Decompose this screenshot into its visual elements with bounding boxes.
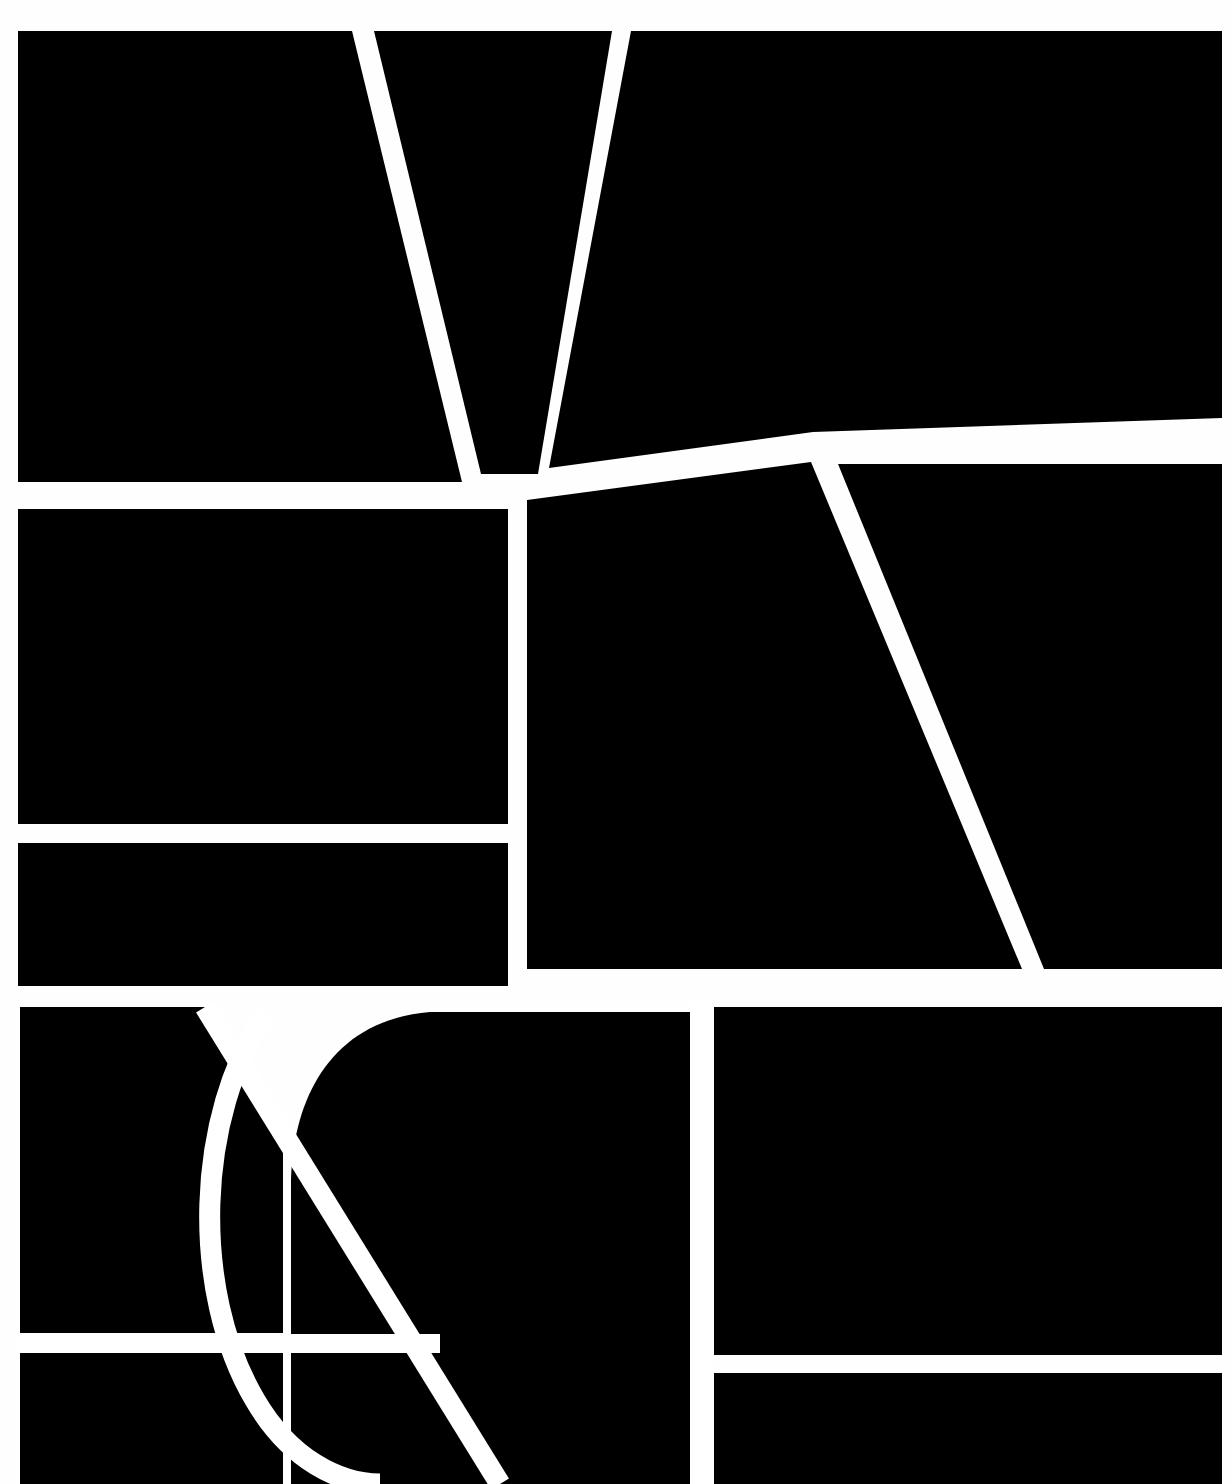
panel-bottom-right-upper bbox=[713, 1007, 1222, 1355]
margin-left bbox=[0, 0, 18, 1484]
artwork-canvas: Abstract High-Contrast Composition Black… bbox=[0, 0, 1230, 1484]
horizontal-rule-lower-left bbox=[0, 1334, 440, 1353]
panel-bottom-right-lower bbox=[713, 1373, 1222, 1484]
vertical-channel-bottom bbox=[690, 1000, 714, 1484]
panel-mid-left-upper bbox=[18, 509, 508, 824]
margin-top bbox=[0, 0, 1230, 31]
margin-right bbox=[1222, 0, 1230, 1484]
panel-mid-left-lower bbox=[18, 843, 508, 986]
panel-top-right bbox=[549, 31, 1222, 468]
composition-svg bbox=[0, 0, 1230, 1484]
